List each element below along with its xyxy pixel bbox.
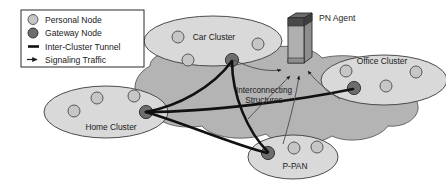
personal-node-circle-icon bbox=[28, 15, 38, 25]
p-pan-ellipse bbox=[248, 135, 338, 179]
personal-node bbox=[311, 141, 323, 153]
pn-architecture-diagram: Car Cluster Office Cluster Home Cluster bbox=[0, 0, 446, 186]
home-cluster-label: Home Cluster bbox=[85, 122, 136, 132]
legend-label-gateway-node: Gateway Node bbox=[45, 28, 102, 38]
car-cluster-label: Car Cluster bbox=[193, 32, 236, 42]
personal-node bbox=[340, 65, 352, 77]
legend-label-personal-node: Personal Node bbox=[45, 15, 102, 25]
personal-node bbox=[172, 31, 184, 43]
cluster-office[interactable]: Office Cluster bbox=[321, 55, 446, 105]
legend-label-tunnel: Inter-Cluster Tunnel bbox=[45, 42, 121, 52]
personal-node bbox=[288, 142, 300, 154]
interconnect-line-1: Interconnecting bbox=[236, 86, 292, 95]
p-pan-label: P-PAN bbox=[283, 161, 308, 171]
pn-agent-label: PN Agent bbox=[319, 13, 356, 23]
office-cluster-label: Office Cluster bbox=[357, 56, 408, 66]
personal-node bbox=[128, 90, 140, 102]
personal-node bbox=[91, 92, 103, 104]
cluster-p-pan[interactable]: P-PAN bbox=[248, 135, 338, 179]
interconnect-line-2: Structures bbox=[245, 96, 282, 105]
personal-node bbox=[182, 54, 194, 66]
personal-node bbox=[380, 80, 392, 92]
personal-node bbox=[410, 66, 422, 78]
office-cluster-gateway[interactable] bbox=[347, 81, 360, 94]
server-base bbox=[288, 58, 304, 63]
diagram-legend: Personal Node Gateway Node Inter-Cluster… bbox=[21, 10, 144, 67]
personal-node bbox=[252, 38, 264, 50]
cluster-car[interactable]: Car Cluster bbox=[144, 16, 282, 67]
personal-node bbox=[68, 105, 80, 117]
gateway-node-circle-icon bbox=[28, 28, 38, 38]
legend-label-signaling: Signaling Traffic bbox=[45, 55, 107, 65]
server-bezel bbox=[288, 18, 304, 26]
